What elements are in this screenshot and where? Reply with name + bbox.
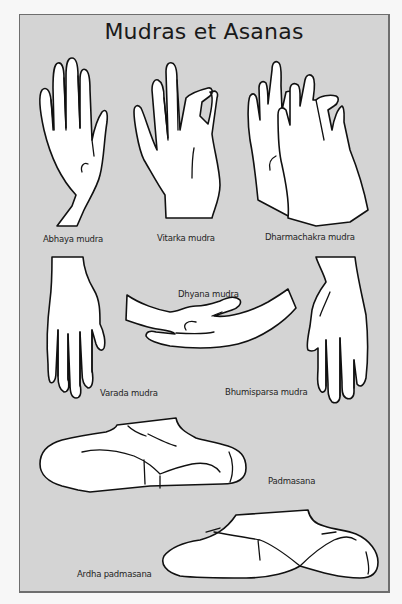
label-dhyana-mudra: Dhyana mudra xyxy=(178,289,239,299)
label-vitarka-mudra: Vitarka mudra xyxy=(157,233,215,243)
label-padmasana: Padmasana xyxy=(268,476,315,486)
earth-touching-hand-icon xyxy=(307,257,367,403)
label-bhumisparsa-mudra: Bhumisparsa mudra xyxy=(225,387,307,397)
label-ardha-padmasana: Ardha padmasana xyxy=(77,569,152,579)
label-abhaya-mudra: Abhaya mudra xyxy=(43,234,103,244)
downward-open-palm-hand-icon xyxy=(47,257,105,398)
label-varada-mudra: Varada mudra xyxy=(100,388,158,398)
half-lotus-legs-icon xyxy=(163,510,378,578)
two-hands-wheel-gesture-icon xyxy=(248,62,368,226)
thumb-index-circle-hand-icon xyxy=(134,63,220,218)
full-lotus-legs-icon xyxy=(40,418,246,492)
raised-open-palm-hand-icon xyxy=(40,58,107,226)
illustrations xyxy=(0,0,402,604)
label-dharmachakra-mudra: Dharmachakra mudra xyxy=(265,232,355,242)
